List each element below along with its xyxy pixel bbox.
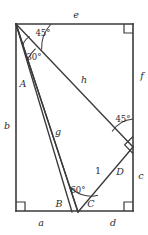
segment-A-left-ray — [16, 24, 72, 212]
angle-label-45-top: 45° — [35, 29, 50, 38]
segment-g — [16, 24, 78, 212]
angle-label-30-top: 30° — [26, 53, 41, 62]
segment-label-C: C — [87, 199, 94, 209]
segment-label-A: A — [20, 79, 27, 89]
segment-h — [16, 24, 133, 147]
segment-label-g: g — [55, 127, 61, 137]
side-label-b: b — [4, 121, 10, 131]
segment-label-D: D — [116, 167, 124, 177]
side-label-e: e — [73, 10, 79, 20]
side-label-d: d — [110, 218, 116, 228]
angle-label-45-right: 45° — [115, 115, 130, 124]
side-label-f: f — [140, 71, 144, 81]
segment-label-h: h — [81, 75, 87, 85]
angle-label-60-bottom: 60° — [70, 186, 85, 195]
side-label-a: a — [38, 218, 44, 228]
length-label-one: 1 — [95, 166, 101, 176]
arc-inner-top — [23, 36, 30, 45]
segment-label-B: B — [56, 199, 63, 209]
side-label-c: c — [138, 171, 143, 181]
right-angle-bottom-left-mark — [16, 202, 25, 211]
right-angle-top-right-mark — [124, 24, 133, 33]
right-angle-bottom-right-mark — [124, 202, 133, 211]
geometry-figure: e f c d a b A h g B C D 1 45° 30° 45° 60… — [0, 0, 148, 235]
